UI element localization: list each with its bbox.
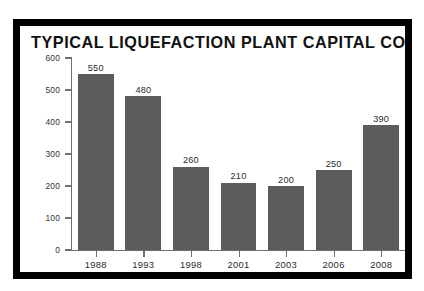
y-tick-label: 300 (34, 149, 60, 159)
y-tick-label: 0 (34, 245, 60, 255)
y-tick-label: 400 (34, 117, 60, 127)
y-tick-mark (65, 89, 72, 90)
y-tick-mark (65, 121, 72, 122)
x-tick-label: 2001 (215, 259, 263, 270)
bar-value-label: 250 (316, 159, 352, 169)
bar-group[interactable]: 210 (221, 58, 257, 250)
bar-rect[interactable] (173, 167, 209, 250)
x-tick-mark (191, 251, 192, 257)
bar-value-label: 200 (268, 175, 304, 185)
bar-group[interactable]: 550 (78, 58, 114, 250)
bar-group[interactable]: 200 (268, 58, 304, 250)
y-tick-label: 500 (34, 85, 60, 95)
bar-value-label: 260 (173, 155, 209, 165)
x-tick-label: 2008 (357, 259, 405, 270)
bar-value-label: 390 (363, 114, 399, 124)
bar-value-label: 210 (221, 171, 257, 181)
bar-group[interactable]: 390 (363, 58, 399, 250)
chart-title: TYPICAL LIQUEFACTION PLANT CAPITAL COSTS (31, 33, 405, 52)
y-tick-mark (65, 185, 72, 186)
y-tick-label: 600 (34, 53, 60, 63)
y-tick-mark (65, 57, 72, 58)
bar-group[interactable]: 250 (316, 58, 352, 250)
bar-rect[interactable] (316, 170, 352, 250)
x-tick-label: 1993 (120, 259, 168, 270)
bar-rect[interactable] (268, 186, 304, 250)
bar-rect[interactable] (125, 96, 161, 250)
x-tick-mark (334, 251, 335, 257)
bar-group[interactable]: 480 (125, 58, 161, 250)
x-tick-mark (381, 251, 382, 257)
x-tick-mark (143, 251, 144, 257)
y-tick-mark (65, 217, 72, 218)
bar-group[interactable]: 260 (173, 58, 209, 250)
y-tick-label: 200 (34, 181, 60, 191)
plot-area: 550480260210200250390 (72, 58, 405, 250)
x-tick-label: 1998 (167, 259, 215, 270)
x-tick-label: 2003 (262, 259, 310, 270)
chart-border-frame: TYPICAL LIQUEFACTION PLANT CAPITAL COSTS… (13, 19, 412, 279)
bar-value-label: 550 (78, 63, 114, 73)
bar-value-label: 480 (125, 85, 161, 95)
x-tick-label: 2006 (310, 259, 358, 270)
y-tick-mark (65, 249, 72, 250)
bar-rect[interactable] (363, 125, 399, 250)
x-tick-label: 1988 (72, 259, 120, 270)
x-tick-mark (239, 251, 240, 257)
x-tick-mark (286, 251, 287, 257)
figure-root: TYPICAL LIQUEFACTION PLANT CAPITAL COSTS… (0, 0, 424, 291)
y-tick-label: 100 (34, 213, 60, 223)
x-tick-mark (96, 251, 97, 257)
bar-rect[interactable] (221, 183, 257, 250)
bar-rect[interactable] (78, 74, 114, 250)
chart-panel: TYPICAL LIQUEFACTION PLANT CAPITAL COSTS… (20, 26, 405, 272)
y-tick-mark (65, 153, 72, 154)
